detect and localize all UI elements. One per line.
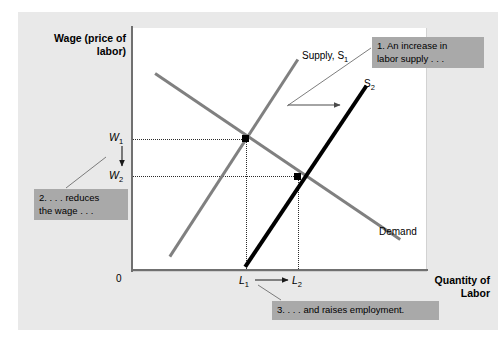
quantity-label-l1-subscript: 1	[245, 280, 249, 289]
wage-label-w1: W1	[109, 131, 123, 146]
wage-label-w1-text: W	[109, 131, 119, 143]
annotation-step-3: 3. . . . and raises employment.	[272, 301, 439, 320]
supply-s1-label-subscript: 1	[344, 55, 348, 64]
supply-s2-label: S2	[364, 78, 375, 92]
equilibrium-point-2	[294, 173, 301, 180]
guide-line-w1	[133, 139, 248, 140]
x-axis-title: Quantity of Labor	[408, 274, 490, 299]
equilibrium-point-1	[242, 135, 249, 142]
annotation-step-1: 1. An increase in labor supply . . .	[372, 37, 484, 68]
wage-label-w2-subscript: 2	[119, 175, 123, 184]
quantity-label-l2: L2	[292, 274, 302, 289]
supply-s2-label-subscript: 2	[371, 83, 375, 92]
supply-s1-label: Supply, S1	[302, 50, 348, 64]
wage-label-w1-subscript: 1	[119, 137, 123, 146]
supply-s1-label-text: Supply, S	[302, 50, 344, 61]
annotation-step-2: 2. . . . reduces the wage . . .	[34, 189, 128, 220]
origin-label: 0	[116, 273, 122, 284]
demand-label: Demand	[379, 226, 417, 237]
wage-label-w2-text: W	[109, 169, 119, 181]
quantity-label-l2-subscript: 2	[298, 280, 302, 289]
supply-s2-label-text: S	[364, 78, 371, 89]
wage-label-w2: W2	[109, 169, 123, 184]
y-axis-line	[131, 26, 133, 272]
x-axis-line	[131, 269, 428, 271]
y-axis-title: Wage (price of labor)	[40, 32, 126, 57]
guide-line-l1	[246, 139, 247, 269]
guide-line-w2	[133, 176, 300, 177]
quantity-label-l1: L1	[239, 274, 249, 289]
labor-market-supply-shift-figure: Wage (price of labor) Quantity of Labor …	[0, 0, 498, 345]
